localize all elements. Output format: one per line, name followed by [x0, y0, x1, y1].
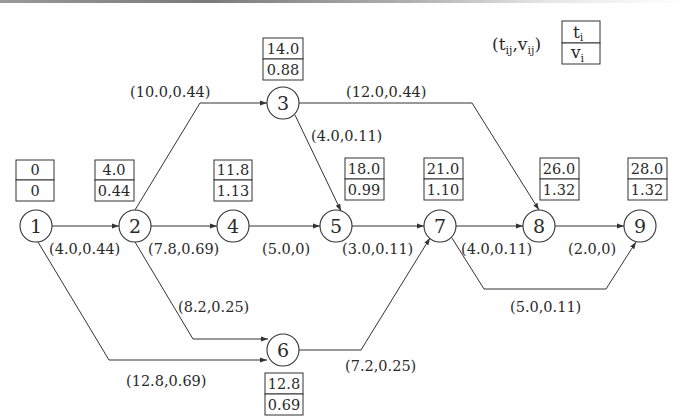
node-4: 4: [217, 210, 249, 242]
node-3-t: 14.0: [267, 41, 299, 57]
edge-label-7-8: (4.0,0.11): [461, 241, 532, 257]
node-box-7: 21.0 1.10: [424, 158, 463, 200]
edge-label-1-6: (12.8,0.69): [126, 373, 207, 389]
node-9: 9: [624, 210, 656, 242]
node-6: 6: [267, 334, 299, 366]
node-4-v: 1.13: [217, 183, 249, 199]
node-1-v: 0: [30, 183, 39, 199]
edge-label-3-8: (12.0,0.44): [346, 84, 427, 100]
node-1-label: 1: [30, 215, 42, 237]
node-5: 5: [320, 210, 352, 242]
edge-label-6-7: (7.2,0.25): [345, 358, 416, 374]
node-8-label: 8: [533, 215, 545, 237]
legend: (tij,vij) ti vi: [492, 21, 600, 65]
node-9-t: 28.0: [631, 161, 663, 177]
edge-label-2-3: (10.0,0.44): [130, 84, 211, 100]
node-2-t: 4.0: [102, 162, 125, 178]
edge-label-3-5: (4.0,0.11): [311, 128, 382, 144]
node-6-t: 12.8: [268, 376, 300, 392]
node-box-9: 28.0 1.32: [628, 158, 667, 200]
node-box-6: 12.8 0.69: [265, 373, 303, 415]
node-5-t: 18.0: [348, 161, 380, 177]
node-2-label: 2: [129, 215, 141, 237]
node-3: 3: [267, 87, 299, 119]
edge-label-5-7: (3.0,0.11): [342, 241, 413, 257]
node-6-v: 0.69: [268, 397, 300, 413]
node-7-t: 21.0: [427, 161, 459, 177]
node-1: 1: [20, 210, 52, 242]
node-9-label: 9: [634, 215, 646, 237]
edge-label-4-5: (5.0,0): [262, 241, 310, 257]
node-4-label: 4: [227, 215, 239, 237]
edge-label-7-9: (5.0,0.11): [510, 299, 581, 315]
node-6-label: 6: [277, 339, 289, 361]
edge-3-8: [299, 103, 539, 210]
node-box-3: 14.0 0.88: [263, 38, 303, 80]
node-2-v: 0.44: [98, 183, 130, 199]
node-9-v: 1.32: [631, 182, 663, 198]
edge-label-1-2: (4.0,0.44): [49, 241, 120, 257]
edge-label-2-6: (8.2,0.25): [178, 299, 249, 315]
node-box-4: 11.8 1.13: [214, 160, 252, 201]
node-5-v: 0.99: [348, 182, 380, 198]
node-8-v: 1.32: [543, 182, 575, 198]
node-7-label: 7: [434, 215, 446, 237]
node-3-label: 3: [277, 92, 289, 114]
node-3-v: 0.88: [267, 62, 299, 78]
node-1-t: 0: [30, 162, 39, 178]
node-7-v: 1.10: [427, 182, 459, 198]
legend-edge-format: (tij,vij): [492, 34, 541, 57]
node-7: 7: [424, 210, 456, 242]
node-2: 2: [119, 210, 151, 242]
edge-label-8-9: (2.0,0): [568, 241, 616, 257]
node-box-8: 26.0 1.32: [540, 158, 579, 200]
node-4-t: 11.8: [217, 162, 249, 178]
node-5-label: 5: [330, 215, 342, 237]
node-8-t: 26.0: [543, 161, 575, 177]
node-box-2: 4.0 0.44: [95, 160, 134, 201]
node-box-5: 18.0 0.99: [345, 158, 384, 200]
node-8: 8: [523, 210, 555, 242]
edge-label-2-4: (7.8,0.69): [148, 241, 219, 257]
network-diagram: (tij,vij) ti vi (4.0,0.44) (12.8,0.69) (…: [0, 0, 684, 419]
node-box-1: 0 0: [16, 160, 54, 201]
